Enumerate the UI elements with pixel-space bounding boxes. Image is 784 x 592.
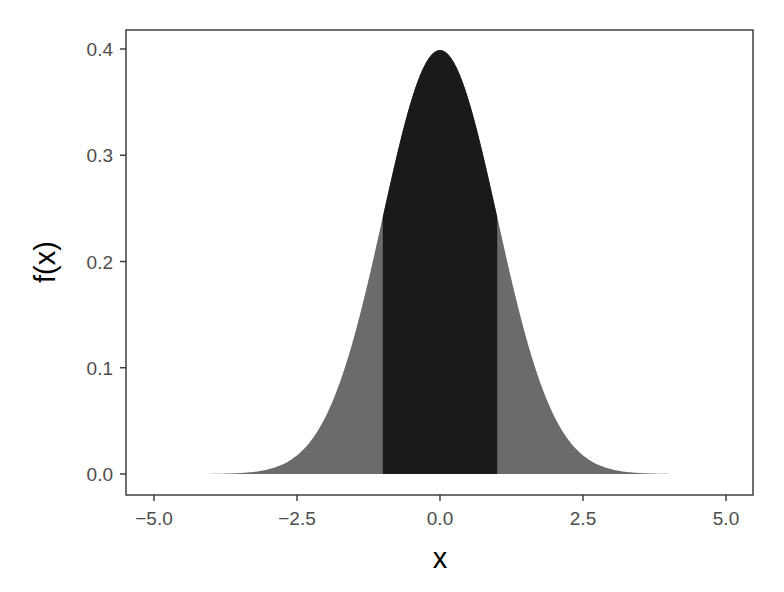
y-tick-label: 0.1: [87, 358, 113, 379]
y-tick-label: 0.0: [87, 464, 113, 485]
x-tick-label: −2.5: [278, 508, 316, 529]
y-tick-label: 0.3: [87, 145, 113, 166]
x-axis-title: x: [433, 542, 448, 574]
y-axis-title: f(x): [29, 241, 61, 283]
normal-density-chart: 0.00.10.20.30.4 −5.0−2.50.02.55.0 x f(x): [0, 0, 784, 592]
y-tick-label: 0.4: [87, 39, 114, 60]
y-tick-label: 0.2: [87, 252, 113, 273]
x-tick-label: −5.0: [135, 508, 173, 529]
plot-panel: [126, 30, 753, 495]
inner-density-area: [383, 50, 497, 474]
x-tick-label: 5.0: [713, 508, 739, 529]
x-tick-label: 2.5: [570, 508, 596, 529]
x-axis: −5.0−2.50.02.55.0: [135, 495, 739, 529]
x-tick-label: 0.0: [427, 508, 453, 529]
y-axis: 0.00.10.20.30.4: [87, 39, 126, 485]
